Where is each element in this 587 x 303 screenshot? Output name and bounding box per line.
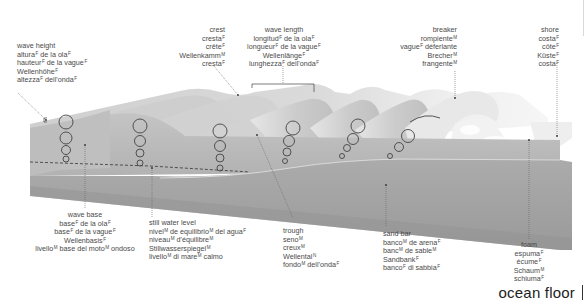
label-wave-base: wave base baseF de la olaF baseF de la v… [20,211,150,254]
label-foam: foam espumaF écumeF SchaumM schiumaF [506,241,552,284]
section-title: ocean floor [499,284,575,301]
label-still-water-level: still water level nivelM de equilibrioM … [149,219,246,262]
title-divider [582,285,583,300]
label-shore: shore costaF côteF KüsteF costaF [537,26,559,69]
label-crest: crest crestaF crêteF WellenkammM crestaF [179,26,225,69]
label-sand-bar: sand bar bancoM de arenaF bancM de sable… [383,230,441,273]
page-edge-marker [583,0,584,36]
label-wave-length: wave length longitudF de la olaF longueu… [240,26,328,69]
label-breaker: breaker rompienteM vagueF déferlante Bre… [400,26,457,69]
label-trough: trough senoM creuxM WellentalN fondoM de… [283,227,339,270]
label-wave-height: wave height alturaF de la olaF hauteurF … [17,42,87,85]
